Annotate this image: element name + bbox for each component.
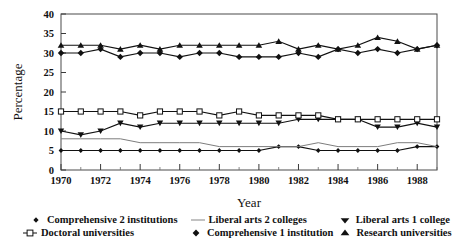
y-tick-label: 40 [44,9,55,20]
legend-item-comprehensive-1-institution[interactable]: Comprehensive 1 institution [188,227,333,238]
data-point-marker [118,109,123,114]
filled-diamond-icon [188,228,204,238]
data-point-marker [296,113,301,118]
data-point-marker [196,50,202,56]
legend-row-2: Doctoral universities Comprehensive 1 in… [0,227,457,238]
line-icon [190,215,206,225]
legend-item-liberal-arts-2-colleges[interactable]: Liberal arts 2 colleges [190,214,307,225]
data-point-marker [78,50,84,56]
data-point-marker [217,113,222,118]
data-point-marker [275,38,282,44]
data-point-marker [394,50,400,56]
legend-item-doctoral-universities[interactable]: Doctoral universities [22,227,134,238]
y-tick-label: 5 [49,145,54,156]
open-square-icon [22,228,38,238]
data-point-marker [157,109,162,114]
chart-legend: Comprehensive 2 institutions Liberal art… [0,214,457,238]
data-point-marker [315,42,322,48]
data-point-marker [375,117,380,122]
x-tick-label: 1974 [130,175,152,186]
series-liberal-arts-2-colleges [61,139,437,147]
x-tick-label: 1978 [209,175,230,186]
y-tick-label: 20 [44,87,55,98]
data-point-marker [78,148,83,153]
axis-labels-layer: 0510152025303540197019721974197619781980… [10,9,428,210]
series-research-universities [58,34,441,51]
legend-label: Liberal arts 2 colleges [209,214,307,225]
data-point-marker [355,42,362,48]
data-point-marker [78,109,83,114]
y-tick-label: 30 [44,48,55,59]
small-diamond-icon [28,215,44,225]
data-point-marker [98,148,103,153]
chart-container: 0510152025303540197019721974197619781980… [0,0,457,252]
x-tick-label: 1986 [367,175,388,186]
data-point-marker [58,109,63,114]
legend-item-research-universities[interactable]: Research universities [337,227,451,238]
data-point-marker [177,148,182,153]
data-point-marker [117,54,123,60]
data-point-marker [137,42,144,48]
series-path [61,147,437,151]
data-point-marker [434,117,439,122]
data-point-marker [158,148,163,153]
data-point-marker [59,148,64,153]
y-tick-label: 25 [44,67,55,78]
data-point-marker [395,117,400,122]
data-point-marker [355,50,361,56]
x-tick-label: 1976 [169,175,190,186]
legend-label: Liberal arts 1 college [356,214,450,225]
legend-row-1: Comprehensive 2 institutions Liberal art… [0,214,457,225]
legend-label: Comprehensive 2 institutions [47,214,178,225]
data-point-marker [374,46,380,52]
data-point-marker [395,148,400,153]
x-tick-label: 1970 [51,175,72,186]
data-point-marker [375,148,380,153]
series-layer [58,34,441,152]
legend-item-liberal-arts-1-college[interactable]: Liberal arts 1 college [337,214,450,225]
data-point-marker [315,54,321,60]
data-point-marker [197,109,202,114]
legend-label: Comprehensive 1 institution [207,227,333,238]
data-point-marker [415,117,420,122]
data-point-marker [58,50,64,56]
data-point-marker [316,113,321,118]
up-triangle-icon [337,228,353,238]
data-point-marker [216,50,222,56]
y-axis-title: Percentage [10,63,25,120]
series-path [61,37,437,49]
data-point-marker [137,125,143,131]
data-point-marker [137,50,143,56]
data-point-marker [336,148,341,153]
y-tick-label: 35 [44,28,55,39]
data-point-marker [118,148,123,153]
data-point-marker [197,148,202,153]
down-triangle-icon [337,215,353,225]
data-point-marker [355,148,360,153]
x-tick-label: 1982 [288,175,309,186]
series-path [61,139,437,147]
data-point-marker [98,109,103,114]
data-point-marker [335,117,340,122]
data-point-marker [177,109,182,114]
series-doctoral-universities [58,109,439,122]
data-point-marker [256,113,261,118]
data-point-marker [138,113,143,118]
data-point-marker [256,54,262,60]
y-tick-label: 0 [49,165,54,176]
data-point-marker [276,113,281,118]
data-point-marker [217,148,222,153]
x-tick-label: 1972 [90,175,111,186]
data-point-marker [237,109,242,114]
data-point-marker [355,117,360,122]
y-tick-label: 10 [44,126,55,137]
legend-label: Doctoral universities [41,227,134,238]
legend-item-comprehensive-2-institutions[interactable]: Comprehensive 2 institutions [28,214,178,225]
data-point-marker [237,148,242,153]
data-point-marker [316,148,321,153]
data-point-marker [177,54,183,60]
series-path [61,45,437,57]
data-point-marker [138,148,143,153]
data-point-marker [78,132,84,138]
x-tick-label: 1984 [328,175,350,186]
